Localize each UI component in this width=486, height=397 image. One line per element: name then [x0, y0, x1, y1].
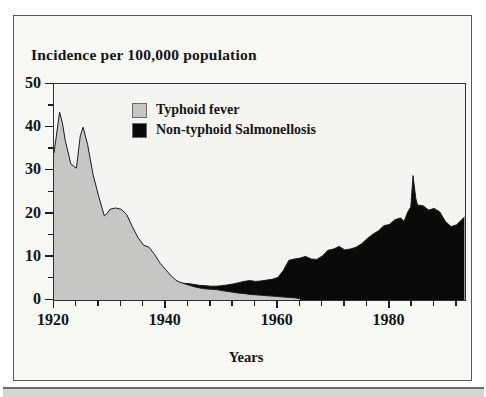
x-tick: [53, 300, 55, 308]
x-tick: [299, 300, 301, 306]
figure-card: Incidence per 100,000 population Typhoid…: [13, 15, 472, 381]
y-tick-label: 0: [7, 290, 41, 308]
y-tick-label: 30: [7, 160, 41, 178]
typhoid-swatch-icon: [132, 103, 147, 118]
chart-title: Incidence per 100,000 population: [31, 46, 257, 64]
y-tick: [45, 83, 53, 85]
legend-item-typhoid: Typhoid fever: [132, 102, 316, 118]
y-tick: [48, 147, 53, 149]
x-tick: [120, 300, 122, 306]
y-tick: [45, 126, 53, 128]
x-tick: [366, 300, 368, 306]
x-tick: [209, 300, 211, 306]
x-tick-label: 1920: [29, 311, 77, 329]
x-tick-label: 1960: [253, 311, 301, 329]
x-tick: [75, 300, 77, 306]
legend-label-salmonellosis: Non-typhoid Salmonellosis: [156, 122, 316, 138]
y-tick: [48, 234, 53, 236]
x-tick: [321, 300, 323, 306]
legend-label-typhoid: Typhoid fever: [156, 102, 239, 118]
x-tick-label: 1940: [141, 311, 189, 329]
y-tick: [48, 104, 53, 106]
y-tick: [48, 191, 53, 193]
next-figure-edge: [3, 387, 484, 397]
x-tick: [164, 300, 166, 308]
x-tick: [97, 300, 99, 306]
x-tick: [231, 300, 233, 306]
y-tick: [45, 255, 53, 257]
area-typhoid: [54, 112, 300, 300]
y-tick-label: 20: [7, 204, 41, 222]
x-tick: [276, 300, 278, 308]
salmonellosis-swatch-icon: [132, 123, 147, 138]
y-tick: [45, 212, 53, 214]
x-tick: [388, 300, 390, 308]
x-tick: [142, 300, 144, 306]
y-tick-label: 40: [7, 117, 41, 135]
y-tick-label: 50: [7, 74, 41, 92]
legend: Typhoid fever Non-typhoid Salmonellosis: [132, 102, 316, 138]
area-salmonellosis: [177, 176, 464, 300]
y-tick: [45, 169, 53, 171]
y-tick: [48, 277, 53, 279]
legend-item-salmonellosis: Non-typhoid Salmonellosis: [132, 122, 316, 138]
x-tick: [455, 300, 457, 306]
x-axis-title: Years: [216, 349, 276, 366]
y-tick-label: 10: [7, 247, 41, 265]
x-tick: [433, 300, 435, 306]
x-tick-label: 1980: [365, 311, 413, 329]
x-tick: [254, 300, 256, 306]
x-tick: [187, 300, 189, 306]
x-tick: [410, 300, 412, 306]
x-tick: [343, 300, 345, 306]
